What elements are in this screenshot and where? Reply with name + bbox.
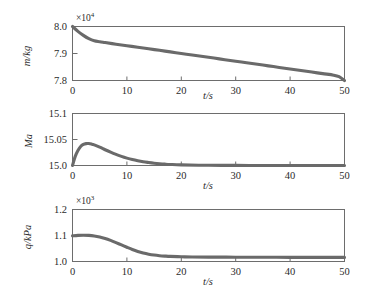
mach-y-axis-title: Ma — [23, 134, 34, 149]
mach-xtick-label-0: 0 — [70, 170, 75, 181]
q-xtick-label-5: 50 — [339, 266, 350, 277]
mass-x-ticks — [73, 77, 345, 81]
chart-panel-dynamic-pressure: 1.0 1.1 1.2 0 10 20 30 40 50 ×103 q/kPa … — [0, 189, 367, 290]
mass-ytick-label-1: 7.9 — [54, 48, 67, 59]
mass-xtick-label-3: 30 — [230, 85, 241, 96]
mass-xtick-label-0: 0 — [70, 85, 75, 96]
q-ytick-label-0: 1.0 — [54, 256, 67, 267]
mass-xtick-label-5: 50 — [339, 85, 350, 96]
q-ytick-label-2: 1.2 — [54, 204, 67, 215]
q-axes — [73, 210, 345, 262]
q-y-multiplier: ×103 — [76, 194, 95, 206]
mass-curve — [73, 27, 345, 81]
mach-ytick-label-2: 15.1 — [49, 108, 67, 119]
q-x-axis-title: t/s — [203, 276, 213, 287]
chart-panel-mach: 15.0 15.05 15.1 0 10 20 30 40 50 Ma t/s — [0, 97, 367, 191]
mass-xtick-label-4: 40 — [285, 85, 296, 96]
q-plot-frame — [73, 210, 345, 262]
mach-ytick-label-1: 15.05 — [43, 134, 67, 145]
mach-xtick-label-3: 30 — [230, 170, 241, 181]
mass-plot-svg: 7.8 7.9 8.0 0 10 20 30 40 50 ×104 m/kg t… — [0, 0, 367, 100]
q-plot-svg: 1.0 1.1 1.2 0 10 20 30 40 50 ×103 q/kPa … — [0, 189, 367, 290]
chart-panel-mass: 7.8 7.9 8.0 0 10 20 30 40 50 ×104 m/kg t… — [0, 0, 367, 100]
mass-y-axis-title: m/kg — [21, 46, 32, 66]
q-xtick-label-2: 20 — [176, 266, 187, 277]
mass-xtick-label-2: 20 — [176, 85, 187, 96]
mass-ytick-label-2: 8.0 — [54, 21, 67, 32]
mass-ytick-label-0: 7.8 — [54, 75, 67, 86]
mach-ytick-label-0: 15.0 — [49, 160, 67, 171]
mach-curve — [73, 143, 345, 165]
mach-xtick-label-4: 40 — [285, 170, 296, 181]
q-xtick-label-1: 10 — [122, 266, 133, 277]
q-xtick-label-3: 30 — [230, 266, 241, 277]
mach-axes — [73, 114, 345, 166]
mach-plot-svg: 15.0 15.05 15.1 0 10 20 30 40 50 Ma t/s — [0, 97, 367, 191]
mass-y-ticks — [73, 27, 78, 81]
mach-xtick-label-1: 10 — [122, 170, 133, 181]
mass-xtick-label-1: 10 — [122, 85, 133, 96]
q-xtick-label-0: 0 — [70, 266, 75, 277]
mach-xtick-label-2: 20 — [176, 170, 187, 181]
mach-plot-frame — [73, 114, 345, 166]
q-xtick-label-4: 40 — [285, 266, 296, 277]
figure-three-panel-time-histories: 7.8 7.9 8.0 0 10 20 30 40 50 ×104 m/kg t… — [0, 0, 367, 290]
q-ytick-label-1: 1.1 — [54, 230, 67, 241]
mass-y-multiplier: ×104 — [76, 11, 95, 23]
q-curve — [73, 235, 345, 257]
q-y-axis-title: q/kPa — [22, 225, 33, 250]
mach-xtick-label-5: 50 — [339, 170, 350, 181]
